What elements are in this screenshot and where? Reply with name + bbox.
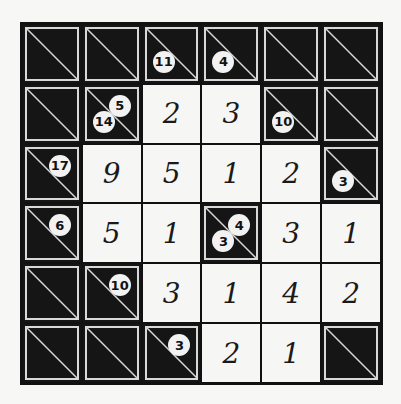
cell-frame: 11 <box>145 27 199 81</box>
cell-value: 1 <box>262 324 320 382</box>
answer-cell[interactable]: 1 <box>202 264 260 322</box>
cell-frame <box>324 27 378 81</box>
clue-cell: 17 <box>23 145 81 203</box>
answer-cell[interactable]: 1 <box>262 324 320 382</box>
clue-cell: 3 <box>143 324 201 382</box>
cell-frame <box>25 87 79 141</box>
cell-frame: 145 <box>85 87 139 141</box>
clue-cell: 3 <box>322 145 380 203</box>
diagonal-divider-icon <box>27 268 77 318</box>
across-clue: 10 <box>109 274 131 296</box>
diagonal-divider-icon <box>27 89 77 139</box>
cell-frame: 6 <box>25 206 79 260</box>
blocked-cell <box>23 264 81 322</box>
blocked-cell <box>23 324 81 382</box>
clue-cell: 4 <box>202 25 260 83</box>
cell-value: 5 <box>83 204 141 262</box>
cell-frame: 3 <box>324 147 378 201</box>
cell-frame <box>25 27 79 81</box>
across-clue: 5 <box>109 95 131 117</box>
diagonal-divider-icon <box>27 29 77 79</box>
cell-value: 4 <box>262 264 320 322</box>
diagonal-divider-icon <box>326 29 376 79</box>
answer-cell[interactable]: 2 <box>143 85 201 143</box>
blocked-cell <box>23 85 81 143</box>
diagonal-divider-icon <box>266 29 316 79</box>
answer-cell[interactable]: 1 <box>322 204 380 262</box>
cell-frame <box>324 87 378 141</box>
cell-frame <box>85 27 139 81</box>
answer-cell[interactable]: 4 <box>262 264 320 322</box>
answer-cell[interactable]: 3 <box>202 85 260 143</box>
blocked-cell <box>322 85 380 143</box>
blocked-cell <box>322 324 380 382</box>
answer-cell[interactable]: 2 <box>262 145 320 203</box>
cell-frame <box>264 27 318 81</box>
diagonal-divider-icon <box>326 328 376 378</box>
cell-value: 2 <box>322 264 380 322</box>
cell-value: 3 <box>262 204 320 262</box>
cell-value: 1 <box>143 204 201 262</box>
diagonal-divider-icon <box>27 328 77 378</box>
clue-cell: 10 <box>83 264 141 322</box>
clue-cell: 6 <box>23 204 81 262</box>
cell-frame <box>25 326 79 380</box>
clue-cell: 11 <box>143 25 201 83</box>
cell-frame: 3 <box>145 326 199 380</box>
cell-frame: 4 <box>204 27 258 81</box>
cell-frame: 34 <box>204 206 258 260</box>
answer-cell[interactable]: 3 <box>143 264 201 322</box>
answer-cell[interactable]: 3 <box>262 204 320 262</box>
answer-cell[interactable]: 1 <box>202 145 260 203</box>
clue-cell: 145 <box>83 85 141 143</box>
cell-frame: 17 <box>25 147 79 201</box>
diagonal-divider-icon <box>87 328 137 378</box>
clue-cell: 10 <box>262 85 320 143</box>
blocked-cell <box>23 25 81 83</box>
cell-value: 2 <box>143 85 201 143</box>
cell-frame <box>25 266 79 320</box>
answer-cell[interactable]: 5 <box>143 145 201 203</box>
cell-value: 3 <box>143 264 201 322</box>
answer-cell[interactable]: 5 <box>83 204 141 262</box>
clue-cell: 34 <box>202 204 260 262</box>
cell-value: 3 <box>202 85 260 143</box>
cell-frame: 10 <box>264 87 318 141</box>
blocked-cell <box>262 25 320 83</box>
cell-value: 2 <box>262 145 320 203</box>
cell-frame: 10 <box>85 266 139 320</box>
cell-value: 2 <box>202 324 260 382</box>
answer-cell[interactable]: 1 <box>143 204 201 262</box>
diagonal-divider-icon <box>326 89 376 139</box>
down-clue: 10 <box>272 111 294 133</box>
cell-value: 1 <box>202 145 260 203</box>
cell-value: 5 <box>143 145 201 203</box>
blocked-cell <box>83 25 141 83</box>
cell-value: 1 <box>202 264 260 322</box>
cell-frame <box>85 326 139 380</box>
blocked-cell <box>83 324 141 382</box>
cell-frame <box>324 326 378 380</box>
kakuro-board: 114145231017951236513431103142321 <box>20 22 383 385</box>
down-clue: 11 <box>153 51 175 73</box>
across-clue: 17 <box>49 155 71 177</box>
blocked-cell <box>322 25 380 83</box>
answer-cell[interactable]: 2 <box>322 264 380 322</box>
cell-value: 9 <box>83 145 141 203</box>
diagonal-divider-icon <box>87 29 137 79</box>
answer-cell[interactable]: 9 <box>83 145 141 203</box>
answer-cell[interactable]: 2 <box>202 324 260 382</box>
cell-value: 1 <box>322 204 380 262</box>
